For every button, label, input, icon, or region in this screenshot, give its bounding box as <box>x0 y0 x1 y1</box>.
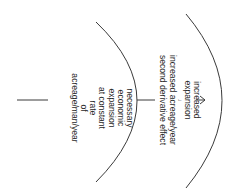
outer-label-line: second derivative effect <box>158 48 167 152</box>
inner-label-line: expansion <box>106 58 115 158</box>
inner-label-line: necessary <box>125 58 134 158</box>
inner-label-line: rate <box>88 58 97 158</box>
outer-label-line: expansion <box>183 48 192 152</box>
inner-label-line: economic <box>116 58 125 158</box>
inner-label-line: acreage/man/year <box>70 58 79 158</box>
inner-label-line: of <box>79 58 88 158</box>
outer-label-line: increased acreage/year <box>167 48 176 152</box>
outer-label: increased expansion ↓ increased acreage/… <box>158 48 201 152</box>
outer-label-line: increased <box>192 48 201 152</box>
inner-label-line: at constant <box>97 58 106 158</box>
inner-label: necessary economic expansion at constant… <box>70 58 134 158</box>
